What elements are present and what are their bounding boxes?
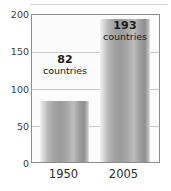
bar-chart-figure: 200 150 100 50 0 82 countries 193 countr…: [0, 0, 171, 191]
bar-1950[interactable]: [40, 101, 89, 162]
x-tick-label-2005: 2005: [91, 167, 156, 181]
bar-value-unit-1950: countries: [33, 66, 97, 76]
y-axis: 200 150 100 50 0: [0, 14, 29, 163]
y-tick-label-150: 150: [1, 46, 29, 57]
y-tick-label-0: 0: [1, 158, 29, 169]
x-tick-label-1950: 1950: [31, 167, 96, 181]
y-tick-label-100: 100: [1, 83, 29, 94]
bar-value-label-2005: 193 countries: [94, 20, 156, 42]
y-tick-label-50: 50: [1, 120, 29, 131]
bar-value-label-1950: 82 countries: [33, 54, 97, 76]
x-axis: 1950 2005: [31, 167, 160, 187]
bar-value-unit-2005: countries: [94, 32, 156, 42]
y-tick-label-200: 200: [1, 9, 29, 20]
top-divider-rule: [30, 4, 168, 5]
plot-area: 82 countries 193 countries: [31, 14, 160, 163]
